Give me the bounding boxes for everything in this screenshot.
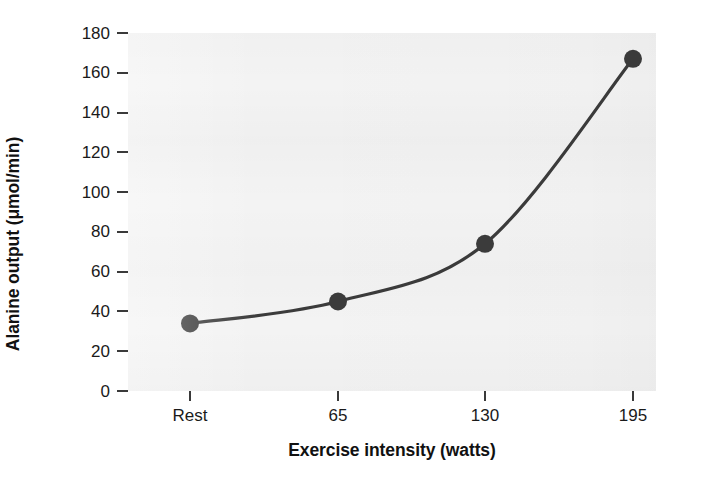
- y-tick-mark: [117, 72, 128, 74]
- data-point-marker: [624, 50, 642, 68]
- x-tick-label: Rest: [173, 407, 208, 424]
- x-tick-label: 65: [329, 407, 348, 424]
- x-tick-label: 195: [619, 407, 647, 424]
- y-tick-mark: [117, 310, 128, 312]
- alanine-output-line: [190, 59, 633, 324]
- x-tick-label: 130: [471, 407, 499, 424]
- alanine-output-markers: [181, 50, 642, 333]
- x-axis-title: Exercise intensity (watts): [128, 440, 656, 461]
- data-point-marker: [329, 293, 347, 311]
- x-tick-mark: [632, 391, 634, 401]
- data-series-line: [128, 33, 656, 391]
- x-tick-mark: [337, 391, 339, 401]
- y-tick-label: 20: [91, 343, 110, 360]
- y-axis-title: Alanine output (μmol/min): [0, 0, 44, 488]
- y-tick-mark: [117, 350, 128, 352]
- y-tick-label: 80: [91, 223, 110, 240]
- y-tick-mark: [117, 191, 128, 193]
- x-tick-mark: [484, 391, 486, 401]
- y-tick-mark: [117, 271, 128, 273]
- y-tick-label: 0: [101, 383, 110, 400]
- y-tick-label: 160: [82, 64, 110, 81]
- y-tick-mark: [117, 390, 128, 392]
- y-tick-label: 40: [91, 303, 110, 320]
- data-point-marker: [181, 314, 199, 332]
- y-tick-label: 100: [82, 184, 110, 201]
- chart-figure: Alanine output (μmol/min) 02040608010012…: [0, 0, 703, 488]
- y-tick-mark: [117, 151, 128, 153]
- y-tick-mark: [117, 32, 128, 34]
- x-tick-mark: [189, 391, 191, 401]
- y-tick-label: 60: [91, 263, 110, 280]
- y-tick-label: 180: [82, 25, 110, 42]
- y-tick-label: 120: [82, 144, 110, 161]
- data-point-marker: [476, 235, 494, 253]
- y-tick-mark: [117, 112, 128, 114]
- y-tick-label: 140: [82, 104, 110, 121]
- plot-area: [128, 33, 656, 391]
- y-axis-ticks: 020406080100120140160180: [60, 33, 128, 391]
- x-axis-ticks: Rest65130195: [128, 391, 656, 435]
- y-tick-mark: [117, 231, 128, 233]
